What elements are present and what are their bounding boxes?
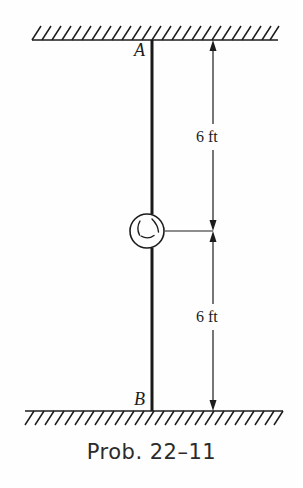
- point-label-a: A: [134, 40, 145, 61]
- dim-lower-arrowhead-top: [210, 231, 217, 242]
- dim-lower-arrowhead-bottom: [210, 400, 217, 411]
- ceiling-support: [32, 26, 279, 40]
- floor-hatching: [25, 411, 283, 425]
- point-label-b: B: [134, 389, 145, 410]
- ceiling-hatching: [32, 26, 279, 40]
- figure-caption: Prob. 22–11: [0, 440, 303, 464]
- dim-upper-arrowhead-bottom: [210, 220, 217, 231]
- dimension-label-upper: 6 ft: [196, 128, 218, 146]
- shaft-disk-collar: [130, 214, 164, 248]
- dim-upper-arrowhead-top: [210, 40, 217, 51]
- problem-figure: [0, 0, 303, 488]
- dimension-label-lower: 6 ft: [196, 308, 218, 326]
- floor-support: [25, 411, 283, 425]
